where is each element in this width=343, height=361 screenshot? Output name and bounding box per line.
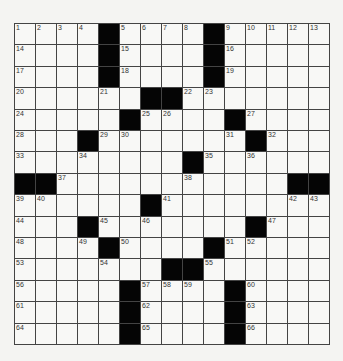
grid-cell[interactable]: 61: [15, 302, 35, 322]
grid-cell[interactable]: 2: [36, 24, 56, 44]
grid-cell[interactable]: 10: [246, 24, 266, 44]
grid-cell[interactable]: [99, 110, 119, 130]
grid-cell[interactable]: [99, 195, 119, 215]
grid-cell[interactable]: [309, 131, 329, 151]
grid-cell[interactable]: 29: [99, 131, 119, 151]
grid-cell[interactable]: [36, 281, 56, 301]
grid-cell[interactable]: [57, 259, 77, 279]
grid-cell[interactable]: [309, 45, 329, 65]
grid-cell[interactable]: 1: [15, 24, 35, 44]
grid-cell[interactable]: [309, 302, 329, 322]
grid-cell[interactable]: [120, 217, 140, 237]
grid-cell[interactable]: [246, 174, 266, 194]
grid-cell[interactable]: [57, 88, 77, 108]
grid-cell[interactable]: [78, 110, 98, 130]
grid-cell[interactable]: [288, 259, 308, 279]
grid-cell[interactable]: [57, 302, 77, 322]
grid-cell[interactable]: [162, 217, 182, 237]
grid-cell[interactable]: [204, 324, 224, 344]
grid-cell[interactable]: [162, 67, 182, 87]
grid-cell[interactable]: 30: [120, 131, 140, 151]
grid-cell[interactable]: [288, 110, 308, 130]
grid-cell[interactable]: 8: [183, 24, 203, 44]
grid-cell[interactable]: [204, 174, 224, 194]
grid-cell[interactable]: [57, 238, 77, 258]
grid-cell[interactable]: [141, 45, 161, 65]
grid-cell[interactable]: [120, 259, 140, 279]
grid-cell[interactable]: [183, 195, 203, 215]
grid-cell[interactable]: [183, 238, 203, 258]
grid-cell[interactable]: [36, 324, 56, 344]
grid-cell[interactable]: [57, 195, 77, 215]
grid-cell[interactable]: [267, 88, 287, 108]
grid-cell[interactable]: [36, 217, 56, 237]
grid-cell[interactable]: 43: [309, 195, 329, 215]
grid-cell[interactable]: [225, 259, 245, 279]
grid-cell[interactable]: [309, 217, 329, 237]
grid-cell[interactable]: [141, 174, 161, 194]
grid-cell[interactable]: 9: [225, 24, 245, 44]
grid-cell[interactable]: 46: [141, 217, 161, 237]
grid-cell[interactable]: [246, 195, 266, 215]
grid-cell[interactable]: [57, 67, 77, 87]
grid-cell[interactable]: [309, 110, 329, 130]
grid-cell[interactable]: 36: [246, 152, 266, 172]
grid-cell[interactable]: [162, 45, 182, 65]
grid-cell[interactable]: 54: [99, 259, 119, 279]
grid-cell[interactable]: 39: [15, 195, 35, 215]
grid-cell[interactable]: [141, 259, 161, 279]
grid-cell[interactable]: [267, 238, 287, 258]
grid-cell[interactable]: [78, 195, 98, 215]
grid-cell[interactable]: [183, 302, 203, 322]
grid-cell[interactable]: 51: [225, 238, 245, 258]
grid-cell[interactable]: [204, 281, 224, 301]
grid-cell[interactable]: 42: [288, 195, 308, 215]
grid-cell[interactable]: 18: [120, 67, 140, 87]
grid-cell[interactable]: [141, 131, 161, 151]
grid-cell[interactable]: [57, 131, 77, 151]
grid-cell[interactable]: [267, 259, 287, 279]
grid-cell[interactable]: [36, 238, 56, 258]
grid-cell[interactable]: 11: [267, 24, 287, 44]
grid-cell[interactable]: [246, 88, 266, 108]
grid-cell[interactable]: [78, 324, 98, 344]
grid-cell[interactable]: [36, 131, 56, 151]
grid-cell[interactable]: 12: [288, 24, 308, 44]
grid-cell[interactable]: [288, 45, 308, 65]
grid-cell[interactable]: [36, 67, 56, 87]
grid-cell[interactable]: 62: [141, 302, 161, 322]
grid-cell[interactable]: [162, 302, 182, 322]
grid-cell[interactable]: 13: [309, 24, 329, 44]
grid-cell[interactable]: 63: [246, 302, 266, 322]
grid-cell[interactable]: 55: [204, 259, 224, 279]
grid-cell[interactable]: 14: [15, 45, 35, 65]
grid-cell[interactable]: [78, 88, 98, 108]
grid-cell[interactable]: [57, 152, 77, 172]
grid-cell[interactable]: 60: [246, 281, 266, 301]
grid-cell[interactable]: [288, 281, 308, 301]
grid-cell[interactable]: [204, 217, 224, 237]
grid-cell[interactable]: [78, 67, 98, 87]
grid-cell[interactable]: [36, 259, 56, 279]
grid-cell[interactable]: [36, 302, 56, 322]
grid-cell[interactable]: [120, 88, 140, 108]
grid-cell[interactable]: [309, 281, 329, 301]
grid-cell[interactable]: [267, 152, 287, 172]
grid-cell[interactable]: [246, 259, 266, 279]
grid-cell[interactable]: 49: [78, 238, 98, 258]
grid-cell[interactable]: [162, 131, 182, 151]
grid-cell[interactable]: 7: [162, 24, 182, 44]
grid-cell[interactable]: [120, 195, 140, 215]
grid-cell[interactable]: [78, 45, 98, 65]
grid-cell[interactable]: 32: [267, 131, 287, 151]
grid-cell[interactable]: 65: [141, 324, 161, 344]
grid-cell[interactable]: [267, 110, 287, 130]
grid-cell[interactable]: [246, 45, 266, 65]
grid-cell[interactable]: [78, 302, 98, 322]
grid-cell[interactable]: [36, 45, 56, 65]
grid-cell[interactable]: [141, 152, 161, 172]
grid-cell[interactable]: 58: [162, 281, 182, 301]
grid-cell[interactable]: 4: [78, 24, 98, 44]
grid-cell[interactable]: [183, 217, 203, 237]
grid-cell[interactable]: [309, 324, 329, 344]
